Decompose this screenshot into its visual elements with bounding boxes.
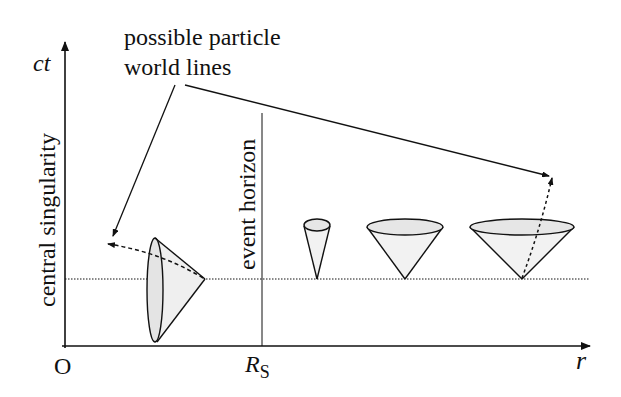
origin-label: O [54, 353, 71, 379]
light-cone-far-from-horizon [470, 219, 574, 279]
central-singularity-label: central singularity [34, 133, 60, 307]
event-horizon-label: event horizon [234, 139, 260, 270]
r-axis-label: r [576, 346, 587, 375]
black-hole-light-cone-diagram: ct r O RS central singularity event hori… [0, 0, 621, 397]
light-cone-outside-horizon [367, 219, 443, 279]
light-cone-near-horizon [304, 219, 330, 279]
schwarzschild-radius-label: RS [244, 351, 270, 382]
rs-main: R [244, 351, 260, 377]
world-lines-annotation-line1: possible particle [124, 24, 281, 50]
world-lines-annotation-line2: world lines [124, 54, 231, 80]
pointer-to-left-world-line [113, 85, 175, 236]
light-cone-inside-horizon [147, 238, 205, 342]
rs-subscript: S [260, 362, 270, 382]
ct-axis-label: ct [33, 50, 52, 76]
diagram-canvas: ct r O RS central singularity event hori… [0, 0, 621, 397]
